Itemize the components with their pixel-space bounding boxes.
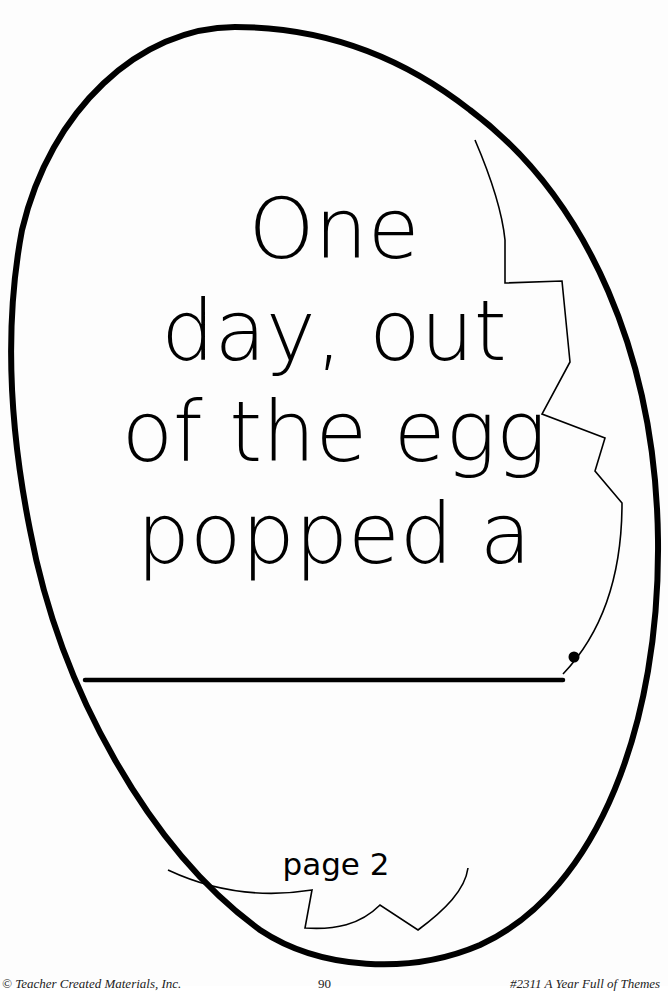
page-label: page 2 bbox=[0, 849, 668, 880]
story-line-4: popped a bbox=[0, 492, 668, 576]
footer-copyright: © Teacher Created Materials, Inc. bbox=[2, 977, 181, 990]
period-dot bbox=[569, 652, 580, 663]
footer-page-number: 90 bbox=[318, 977, 331, 990]
story-line-1: One bbox=[0, 187, 668, 271]
story-line-3: of the egg bbox=[0, 390, 668, 474]
footer-book-title: #2311 A Year Full of Themes bbox=[510, 977, 660, 990]
story-line-2: day, out bbox=[0, 289, 668, 373]
